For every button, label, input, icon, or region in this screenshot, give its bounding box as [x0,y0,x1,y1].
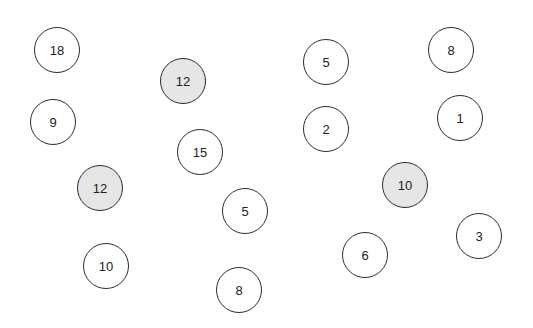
node-label: 10 [99,260,113,273]
node-label: 2 [322,123,329,136]
node-circle: 1 [437,95,483,141]
node-circle: 6 [342,232,388,278]
node-label: 18 [50,44,64,57]
node-circle: 2 [303,106,349,152]
node-label: 12 [176,75,190,88]
node-circle: 18 [34,27,80,73]
node-circle-shaded: 12 [77,165,123,211]
node-circle-shaded: 12 [160,58,206,104]
node-label: 1 [456,112,463,125]
node-label: 5 [241,205,248,218]
node-circle: 10 [83,243,129,289]
node-circle-shaded: 10 [382,162,428,208]
node-circle: 8 [216,267,262,313]
node-circle: 9 [30,99,76,145]
node-label: 10 [398,179,412,192]
node-circle: 5 [222,188,268,234]
node-label: 5 [322,56,329,69]
node-label: 15 [193,146,207,159]
node-circle: 5 [303,39,349,85]
node-label: 12 [93,182,107,195]
node-label: 8 [235,284,242,297]
node-label: 8 [447,44,454,57]
node-label: 6 [361,249,368,262]
node-label: 9 [49,116,56,129]
node-circle: 15 [177,129,223,175]
node-label: 3 [475,230,482,243]
node-circle: 3 [456,213,502,259]
diagram-canvas: 18 12 5 8 9 15 2 1 12 10 5 3 6 10 8 [0,0,533,328]
node-circle: 8 [428,27,474,73]
